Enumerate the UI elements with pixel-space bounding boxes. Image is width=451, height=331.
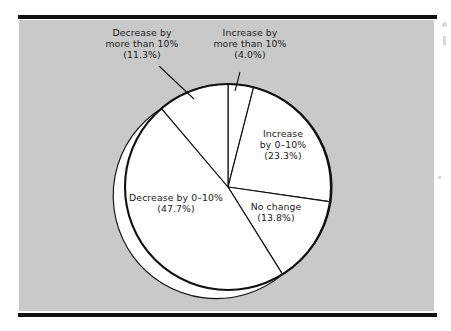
label-no-change: No change (13.8%) (234, 201, 318, 223)
page-edge-mark-c (438, 176, 441, 179)
label-decrease-0-10: Decrease by 0–10% (47.7%) (114, 192, 238, 214)
label-decrease-more-than-10: Decrease by more than 10% (11.3%) (88, 27, 196, 61)
leader-line-decrease-more-than-10 (159, 66, 194, 99)
label-increase-0-10: Increase by 0–10% (23.3%) (245, 128, 321, 162)
page-edge-mark-a (442, 22, 447, 27)
figure-container: Decrease by more than 10% (11.3%) Increa… (0, 0, 451, 331)
page-edge-margin (437, 0, 451, 331)
page-edge-mark-b (443, 36, 446, 45)
label-increase-more-than-10: Increase by more than 10% (4.0%) (198, 27, 302, 61)
